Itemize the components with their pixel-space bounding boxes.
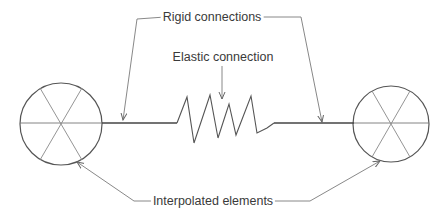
rigid-leader-right (258, 17, 322, 122)
rigid-connections-label: Rigid connections (161, 10, 264, 24)
rigid-leader-left (123, 17, 165, 120)
elastic-connection-label: Elastic connection (171, 50, 276, 64)
interpolated-leader-right (265, 161, 380, 201)
connection-diagram (0, 0, 445, 219)
elastic-spring (177, 95, 274, 143)
right-interpolated-element (353, 86, 429, 162)
interpolated-elements-label: Interpolated elements (151, 194, 275, 208)
left-interpolated-element (20, 83, 102, 165)
